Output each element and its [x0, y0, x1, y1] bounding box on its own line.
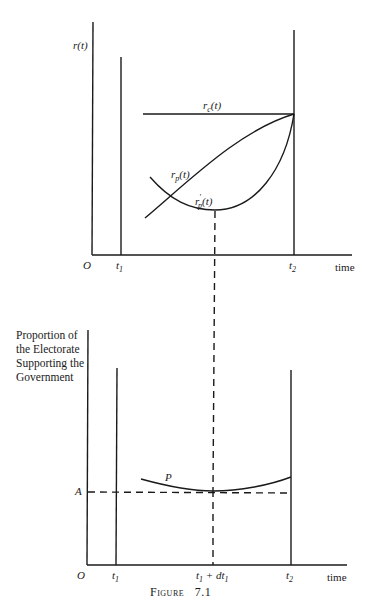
bt2-sub: 2	[289, 575, 293, 584]
rp-label: rp(t)	[171, 169, 190, 183]
t2-sub: 2	[292, 265, 296, 274]
rp-curve	[145, 114, 294, 218]
top-y-axis-label: r(t)	[73, 40, 88, 51]
bottom-y-axis	[87, 330, 88, 565]
y-label-line-4: Government	[16, 370, 84, 384]
y-label-line-1: Proportion of	[16, 328, 84, 342]
y-label-line-3: Supporting the	[16, 356, 84, 370]
top-origin-label: O	[83, 260, 91, 271]
bottom-mid-label: t1 + dt1	[196, 570, 229, 584]
mid-plus: + dt	[203, 569, 224, 581]
y-label-line-2: the Electorate	[16, 342, 84, 356]
top-t1-label: t1	[116, 260, 123, 274]
caption-number: 7.1	[195, 585, 212, 599]
connector-dashed-line	[213, 211, 215, 490]
bottom-t1-line	[116, 368, 117, 565]
rc-arg: (t)	[211, 99, 221, 111]
rc-label: rc(t)	[203, 100, 221, 114]
bottom-y-axis-label: Proportion of the Electorate Supporting …	[16, 328, 84, 384]
p-curve	[141, 477, 291, 491]
p-curve-label: P	[165, 472, 172, 483]
level-a-label: A	[75, 486, 82, 497]
rp-prime-label: r′p(t)	[195, 194, 212, 210]
level-a-dashed-line	[88, 492, 291, 493]
r-of-t-label: r(t)	[73, 39, 88, 51]
figure-canvas	[0, 0, 373, 608]
rpp-arg: (t)	[202, 195, 212, 207]
caption-word: Figure	[150, 585, 184, 599]
bottom-origin-label: O	[77, 570, 85, 581]
top-t2-label: t2	[289, 260, 296, 274]
bottom-x-axis-label: time	[327, 572, 347, 583]
bottom-t2-label: t2	[286, 570, 293, 584]
bottom-t1-label: t1	[112, 570, 119, 584]
figure-caption: Figure 7.1	[150, 585, 211, 600]
rp-arg: (t)	[179, 168, 189, 180]
t1-sub: 1	[119, 265, 123, 274]
top-y-axis	[92, 22, 93, 255]
bt1-sub: 1	[115, 575, 119, 584]
mid-sub2: 1	[225, 575, 229, 584]
top-x-axis-label: time	[335, 262, 355, 273]
